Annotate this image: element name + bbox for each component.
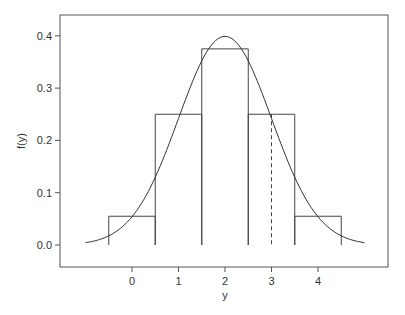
y-tick-label: 0.4 (37, 30, 52, 42)
y-tick-label: 0.0 (37, 239, 52, 251)
y-tick-label: 0.1 (37, 187, 52, 199)
x-tick-label: 4 (315, 275, 321, 287)
y-tick-label: 0.2 (37, 134, 52, 146)
histogram-bar (155, 114, 202, 245)
histogram-bars (109, 49, 342, 245)
histogram-bar (295, 216, 342, 245)
x-tick-label: 2 (222, 275, 228, 287)
x-axis: 01234 (129, 267, 321, 287)
x-axis-label: y (222, 289, 228, 301)
histogram-bar (202, 49, 249, 245)
chart: 0.00.10.20.30.4 01234 y f(y) (0, 0, 405, 315)
y-axis: 0.00.10.20.30.4 (37, 30, 60, 251)
density-curve (86, 36, 365, 242)
x-tick-label: 0 (129, 275, 135, 287)
histogram-bar (109, 216, 156, 245)
x-tick-label: 3 (268, 275, 274, 287)
x-tick-label: 1 (175, 275, 181, 287)
y-axis-label: f(y) (15, 133, 27, 149)
y-tick-label: 0.3 (37, 82, 52, 94)
